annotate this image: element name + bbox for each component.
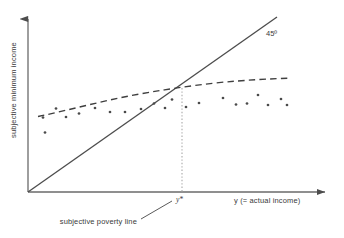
scatter-point: [198, 102, 201, 105]
scatter-point: [44, 131, 47, 134]
scatter-point: [164, 107, 167, 110]
scatter-point: [153, 102, 156, 105]
subjective-minimum-income-curve: [38, 78, 290, 116]
poverty-line-marker-label: y*: [175, 195, 183, 204]
scatter-point: [257, 94, 260, 97]
subjective-poverty-line-annotation: subjective poverty line: [60, 217, 137, 226]
scatter-point: [267, 104, 270, 107]
scatter-point: [235, 103, 238, 106]
scatter-point: [246, 102, 249, 105]
chart-figure: subjective minimum income y (= actual in…: [0, 0, 344, 238]
scatter-point: [171, 98, 174, 101]
scatter-point: [109, 111, 112, 114]
y-axis-label: subjective minimum income: [9, 42, 18, 138]
scatter-point: [140, 108, 143, 111]
scatter-point: [78, 112, 81, 115]
axes-group: [28, 19, 325, 192]
scatter-point: [65, 116, 68, 119]
scatter-points-group: [42, 94, 289, 134]
scatter-point: [94, 107, 97, 110]
scatter-point: [42, 116, 45, 119]
scatter-point: [124, 111, 127, 114]
chart-canvas: subjective minimum income y (= actual in…: [0, 0, 344, 238]
x-axis-label: y (= actual income): [234, 196, 301, 205]
scatter-point: [286, 104, 289, 107]
scatter-point: [185, 106, 188, 109]
forty-five-degree-label: 45º: [266, 29, 277, 38]
annotation-leader-line: [141, 201, 172, 219]
scatter-point: [222, 97, 225, 100]
scatter-point: [55, 107, 58, 110]
forty-five-degree-line: [28, 17, 277, 192]
scatter-point: [280, 98, 283, 101]
